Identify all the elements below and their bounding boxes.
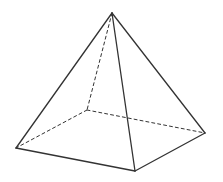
hidden-edge-back-left <box>16 110 87 148</box>
hidden-edge-back-right <box>87 110 205 133</box>
edge-apex-front <box>112 13 135 171</box>
edge-apex-right <box>112 13 205 133</box>
edge-left-front <box>16 148 135 171</box>
hidden-edge-apex-back <box>87 13 112 110</box>
edge-front-right <box>135 133 205 171</box>
edge-apex-left <box>16 13 112 148</box>
pyramid-diagram <box>0 0 223 182</box>
